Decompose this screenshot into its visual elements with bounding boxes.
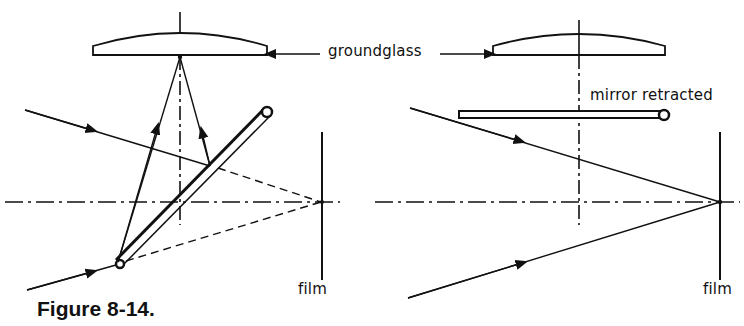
retracted-mirror <box>459 110 669 120</box>
virtual-ray-upper <box>218 168 321 202</box>
label-groundglass: groundglass <box>328 44 422 59</box>
focus-point-film-left <box>320 200 324 204</box>
figure-caption: Figure 8-14. <box>37 298 155 319</box>
focus-point-groundglass <box>178 55 182 59</box>
mirror-pivot-right <box>659 110 669 120</box>
focus-point-film-right <box>718 200 722 204</box>
mirror-pivot-bottom <box>116 260 124 268</box>
right-panel-mirror-up <box>375 20 740 298</box>
label-film-left: film <box>298 282 327 297</box>
ground-glass-left <box>93 33 267 55</box>
mirror-pivot-top <box>262 107 272 117</box>
label-film-right: film <box>703 282 732 297</box>
label-mirror-retracted: mirror retracted <box>590 88 713 103</box>
